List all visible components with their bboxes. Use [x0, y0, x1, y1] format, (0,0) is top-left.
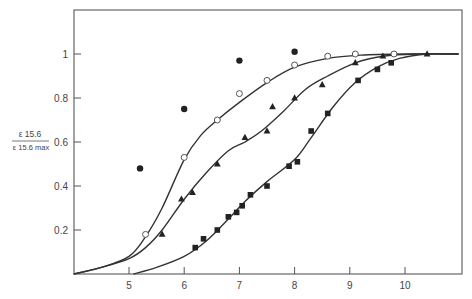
triangle-marker [178, 195, 185, 201]
x-tick-label: 10 [399, 280, 411, 291]
triangle-marker [319, 81, 326, 87]
y-axis-label-denominator: ε 15.6 max [13, 143, 50, 152]
y-tick-label: 0.4 [54, 181, 68, 192]
fit-curves [74, 54, 459, 274]
y-tick-label: 1 [62, 49, 68, 60]
triangle-marker [269, 103, 276, 109]
square-marker [355, 78, 361, 84]
square-marker [239, 203, 245, 209]
open-circle-marker [352, 51, 358, 57]
filled-circle-marker [291, 49, 297, 55]
square-marker [375, 67, 381, 73]
square-marker [286, 163, 292, 169]
square-marker [234, 210, 240, 216]
square-marker [295, 159, 301, 165]
square-marker [264, 183, 270, 189]
x-tick-label: 6 [181, 280, 187, 291]
filled-circle-marker [236, 57, 242, 63]
filled-circle-marker [181, 106, 187, 112]
open-circle-marker [325, 53, 331, 59]
chart: 56789100.20.40.60.81ε 15.6ε 15.6 max [0, 0, 472, 299]
open-circle-marker [264, 77, 270, 83]
open-circle-marker [181, 154, 187, 160]
plot-border [74, 10, 462, 274]
open-circle-marker [143, 231, 149, 237]
triangle-fit-curve [74, 54, 459, 274]
open-circle-marker [214, 117, 220, 123]
triangle-marker [242, 134, 249, 140]
square-marker [215, 227, 221, 233]
y-tick-label: 0.6 [54, 137, 68, 148]
square-marker [201, 236, 207, 242]
square-marker [248, 192, 254, 198]
open-circle-marker [292, 62, 298, 68]
filled-circle-marker [137, 165, 143, 171]
x-tick-label: 9 [347, 280, 353, 291]
data-points [137, 49, 431, 251]
open-circle-fit-curve [74, 54, 459, 274]
x-tick-label: 5 [126, 280, 132, 291]
square-marker [226, 214, 232, 220]
axis-labels: 56789100.20.40.60.81ε 15.6ε 15.6 max [12, 49, 411, 292]
y-tick-label: 0.8 [54, 93, 68, 104]
square-marker [325, 111, 331, 117]
square-marker [388, 60, 394, 66]
x-tick-label: 7 [237, 280, 243, 291]
y-axis-label-numerator: ε 15.6 [19, 129, 42, 139]
square-marker [192, 245, 198, 251]
open-circle-marker [236, 91, 242, 97]
plot-frame [74, 10, 462, 274]
x-tick-label: 8 [292, 280, 298, 291]
open-circle-marker [391, 51, 397, 57]
y-tick-label: 0.2 [54, 225, 68, 236]
square-marker [308, 128, 314, 134]
